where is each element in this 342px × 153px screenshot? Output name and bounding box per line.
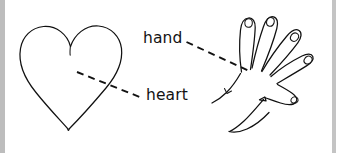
figure-panel: hand heart (0, 0, 342, 153)
label-heart: heart (146, 88, 188, 104)
hand-leader-line (187, 42, 249, 71)
heart-drawing (20, 26, 122, 131)
label-hand: hand (143, 31, 182, 47)
illustration-artwork (0, 0, 342, 153)
hand-drawing (212, 17, 313, 132)
